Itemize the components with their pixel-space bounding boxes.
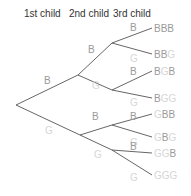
label-3rd-b: B: [130, 22, 137, 33]
branch-2nd: [80, 125, 112, 135]
outcome-ggg: GGG: [154, 170, 178, 181]
label-3rd-b: B: [130, 66, 137, 77]
outcome-ggb: GGB: [154, 148, 177, 159]
outcome-bbg: BBG: [154, 49, 175, 60]
label-3rd-b: B: [130, 111, 137, 122]
outcome-gbg: GBG: [154, 132, 176, 143]
branch-2nd: [80, 135, 112, 150]
label-2nd-g: G: [92, 80, 100, 91]
probability-tree: BGBGBGBBBBGBBGBBGBGBGGBGBBGGBGBGGBGGGG: [0, 0, 191, 196]
label-3rd-g: G: [130, 53, 138, 64]
label-3rd-g: G: [130, 172, 138, 183]
label-1st-b: B: [44, 75, 51, 86]
label-2nd-b: B: [88, 44, 95, 55]
outcome-bgg: BGG: [154, 93, 176, 104]
outcome-gbb: GBB: [154, 109, 175, 120]
label-3rd-b: B: [130, 141, 137, 152]
outcome-bbb: BBB: [154, 23, 174, 34]
branch-2nd: [78, 43, 112, 75]
outcome-bgb: BGB: [154, 66, 175, 77]
label-1st-g: G: [45, 125, 53, 136]
label-3rd-g: G: [130, 97, 138, 108]
branch-3rd: [112, 125, 152, 137]
label-2nd-b: B: [92, 111, 99, 122]
label-2nd-g: G: [94, 149, 102, 160]
